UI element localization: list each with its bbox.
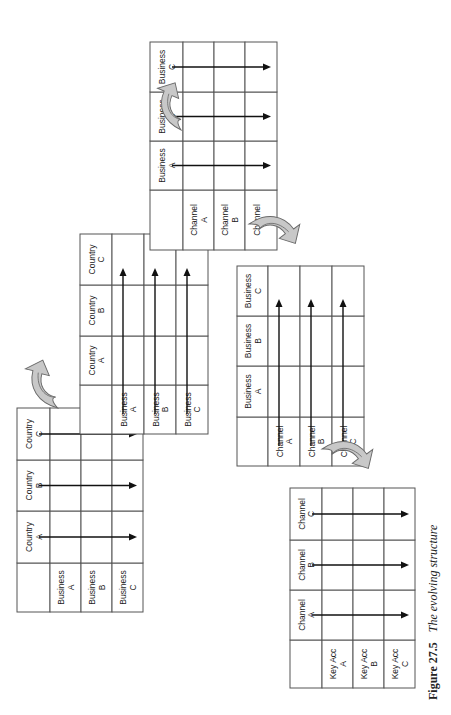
corner-cell — [150, 190, 183, 250]
grid-cell — [332, 316, 364, 366]
corner-cell — [17, 563, 50, 612]
matrix-stage-2: CountryACountryBCountryCBusinessABusines… — [80, 234, 208, 434]
grid-cell — [268, 366, 300, 417]
grid-cell — [268, 316, 300, 366]
grid-cell — [144, 336, 176, 385]
grid-cell — [112, 336, 144, 385]
grid-cell — [112, 285, 144, 336]
grid-cell — [300, 366, 332, 417]
grid-cell — [112, 234, 144, 285]
matrix-stage-1: CountryACountryBCountryCBusinessABusines… — [17, 408, 143, 612]
matrix-stage-4: BusinessABusinessBBusinessCChannelAChann… — [237, 266, 364, 466]
grid-cell — [300, 316, 332, 366]
grid-cell — [144, 285, 176, 336]
evolving-structure-figure: CountryACountryBCountryCBusinessABusines… — [0, 0, 451, 715]
figure-caption: Figure 27.5The evolving structure — [426, 524, 440, 700]
grid-cell — [332, 266, 364, 316]
corner-cell — [237, 417, 268, 466]
corner-cell — [290, 640, 322, 688]
corner-cell — [80, 385, 112, 434]
grid-cell — [300, 266, 332, 316]
matrix-stage-5: ChannelAChannelBChannelCKey AccAKey AccB… — [290, 488, 415, 688]
grid-cell — [176, 285, 208, 336]
grid-cell — [268, 266, 300, 316]
grid-cell — [332, 366, 364, 417]
curved-arrow-icon — [17, 356, 72, 409]
grid-cell — [176, 336, 208, 385]
